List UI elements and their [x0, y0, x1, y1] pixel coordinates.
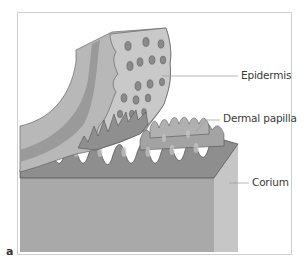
skin-layers-illustration [0, 0, 306, 264]
corium-front-face [20, 178, 214, 252]
corium-label: Corium [252, 176, 289, 188]
dermal-papilla-label: Dermal papilla [223, 112, 297, 124]
epidermis-label: Epidermis [241, 69, 291, 81]
panel-letter: a [6, 245, 13, 258]
papillae-back-rows [140, 117, 224, 150]
